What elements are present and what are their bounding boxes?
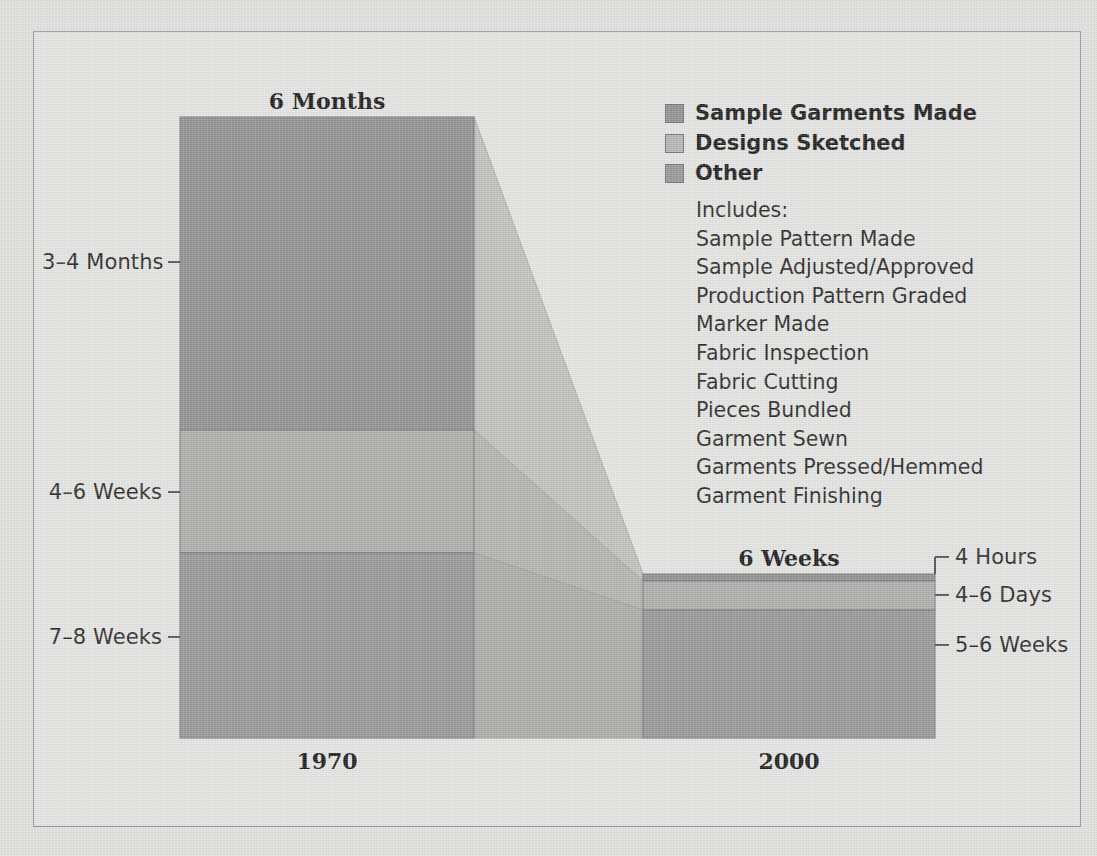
legend-swatch-designs-sketched [665,134,684,153]
includes-item: Fabric Cutting [696,368,1025,397]
bar-1970-segment-sample-garments-made [180,117,474,430]
legend-label-other: Other [695,160,762,186]
includes-item: Marker Made [696,310,1025,339]
axis-left-label-1: 4–6 Weeks [42,480,162,504]
bar-1970-segment-designs-sketched [180,430,474,553]
bar-1970-segment-other [180,553,474,738]
includes-item: Production Pattern Graded [696,282,1025,311]
legend-label-sample-garments-made: Sample Garments Made [695,100,977,126]
category-label-1970: 1970 [180,748,474,774]
legend-item-designs-sketched: Designs Sketched [665,130,1025,160]
axis-right-label-1: 4–6 Days [955,583,1052,607]
includes-item: Garment Finishing [696,482,1025,511]
bar-1970-total-label: 6 Months [180,88,474,114]
chart-legend: Sample Garments Made Designs Sketched Ot… [665,100,1025,511]
includes-item: Fabric Inspection [696,339,1025,368]
includes-item: Garments Pressed/Hemmed [696,453,1025,482]
axis-right-label-0: 4 Hours [955,545,1037,569]
includes-item: Sample Pattern Made [696,225,1025,254]
bar-2000-segment-other [643,610,935,738]
includes-item: Sample Adjusted/Approved [696,253,1025,282]
includes-item: Garment Sewn [696,425,1025,454]
legend-item-other: Other [665,160,1025,190]
includes-item: Pieces Bundled [696,396,1025,425]
bar-2000-total-label: 6 Weeks [643,545,935,571]
legend-item-sample-garments-made: Sample Garments Made [665,100,1025,130]
includes-heading: Includes: [696,196,1025,225]
legend-swatch-other [665,164,684,183]
bar-2000-segment-sample-garments-made [643,574,935,581]
axis-right-label-2: 5–6 Weeks [955,633,1068,657]
bar-2000-segment-designs-sketched [643,581,935,610]
category-label-2000: 2000 [643,748,935,774]
legend-swatch-sample-garments-made [665,104,684,123]
axis-left-label-0: 3–4 Months [42,250,162,274]
legend-includes-block: Includes: Sample Pattern Made Sample Adj… [696,196,1025,511]
legend-label-designs-sketched: Designs Sketched [695,130,906,156]
axis-left-label-2: 7–8 Weeks [42,625,162,649]
